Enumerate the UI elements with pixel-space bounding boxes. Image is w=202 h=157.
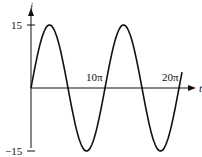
y-tick-label-min: −15 xyxy=(5,145,23,157)
x-axis-arrow-icon xyxy=(188,85,196,91)
x-tick-label-20pi: 20π xyxy=(162,71,179,83)
y-axis-label: i xyxy=(30,0,33,12)
y-tick-label-max: 15 xyxy=(11,19,23,31)
x-axis-label: t xyxy=(199,82,202,94)
x-tick-label-10pi: 10π xyxy=(86,71,103,83)
chart-canvas: i t 15 −15 10π 20π xyxy=(0,0,202,157)
